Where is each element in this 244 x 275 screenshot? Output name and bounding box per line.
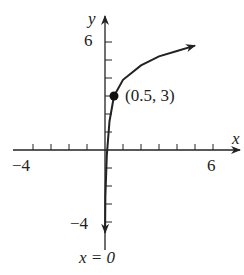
x-tick-label-right: 6 bbox=[207, 156, 216, 175]
asymptote-label: x = 0 bbox=[78, 248, 116, 267]
x-tick-label-left: −4 bbox=[12, 156, 31, 175]
y-tick-label-top: 6 bbox=[84, 31, 93, 50]
chart: y 6 (0.5, 3) x −4 6 −4 x = 0 bbox=[0, 0, 244, 275]
y-axis-label: y bbox=[86, 9, 96, 28]
x-axis-label: x bbox=[231, 129, 240, 148]
x-ticks bbox=[33, 144, 213, 150]
point-label: (0.5, 3) bbox=[125, 86, 175, 105]
curve-lower-branch bbox=[105, 96, 114, 233]
chart-svg: y 6 (0.5, 3) x −4 6 −4 x = 0 bbox=[0, 0, 244, 275]
y-tick-label-bottom: −4 bbox=[70, 214, 89, 233]
point-marker bbox=[110, 92, 119, 101]
